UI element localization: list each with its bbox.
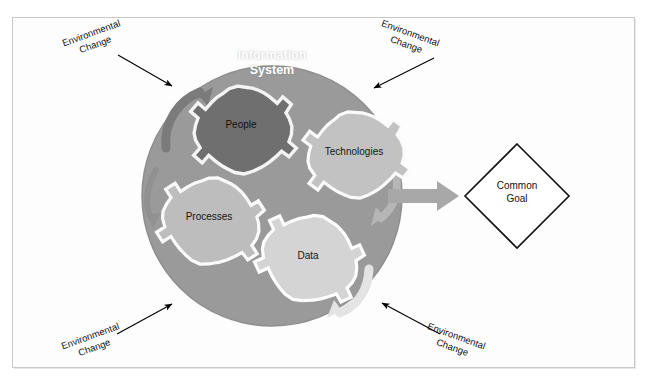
env-arrow-bottom-left <box>117 304 172 334</box>
common-goal-label: Common Goal <box>462 179 572 205</box>
env-arrow-top-left <box>118 55 172 86</box>
env-arrow-top-right <box>374 58 434 88</box>
gear-label-people: People <box>196 119 286 130</box>
information-system-label: Information System <box>214 48 330 78</box>
gear-label-data: Data <box>268 250 348 261</box>
gear-label-technologies: Technologies <box>306 146 402 157</box>
gear-label-processes: Processes <box>161 211 257 222</box>
